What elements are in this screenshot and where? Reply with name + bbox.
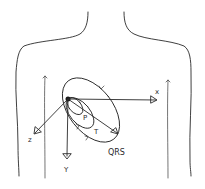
t-loop-label: T xyxy=(93,128,99,136)
x-axis-line xyxy=(68,99,156,100)
qrs-loop-arrow-lower xyxy=(85,136,88,140)
qrs-loop-label: QRS xyxy=(108,148,125,157)
qrs-loop-arrow xyxy=(99,86,104,89)
p-loop-label: P xyxy=(83,114,87,122)
z-axis-line xyxy=(35,99,68,133)
qrs-vector-line xyxy=(68,99,117,133)
torso-left-outline xyxy=(16,12,88,176)
x-axis-label: x xyxy=(155,88,159,96)
y-axis-line xyxy=(67,99,68,156)
z-axis-label: z xyxy=(28,136,32,144)
x-axis-arrowhead xyxy=(151,96,157,103)
qrs-loop xyxy=(51,67,131,152)
y-axis-label: Y xyxy=(63,166,69,174)
torso-vectorcardiogram-diagram: x Y z P T QRS xyxy=(0,0,205,189)
